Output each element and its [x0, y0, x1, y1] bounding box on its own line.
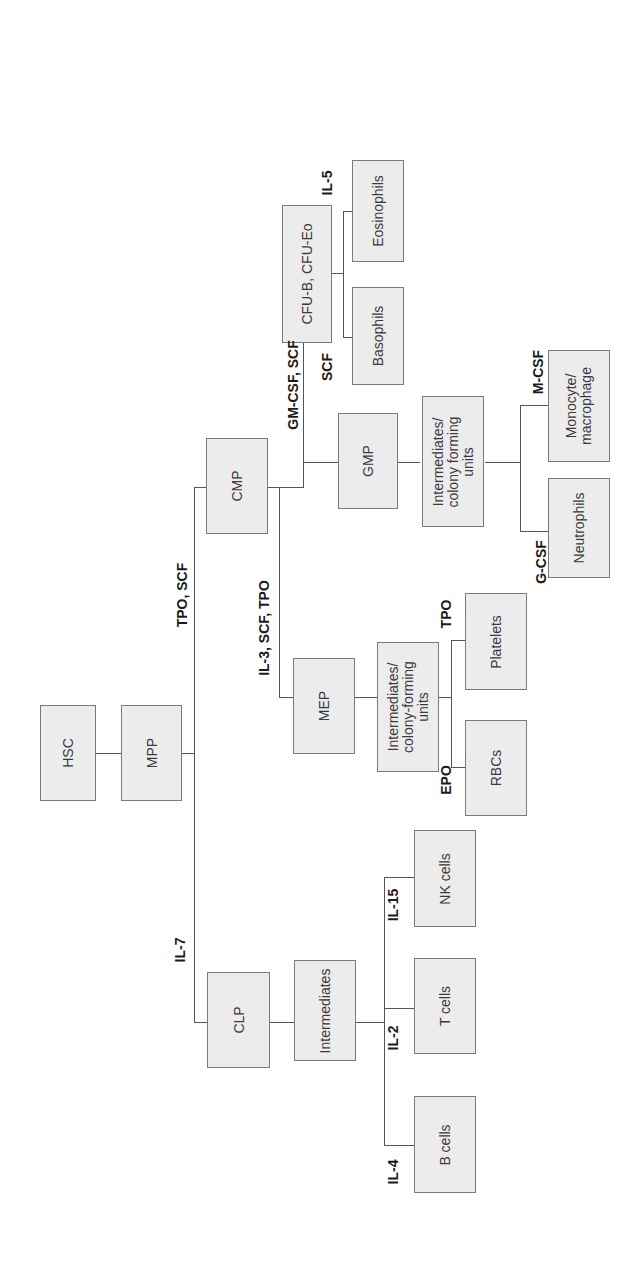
connector-hsc-mpp: [96, 753, 121, 754]
connector-gmpint-right: [485, 462, 520, 463]
node-platelets: Platelets: [465, 593, 527, 690]
cytokine-il5: IL-5: [319, 171, 335, 196]
cytokine-m-csf: M-CSF: [530, 350, 546, 394]
connector-gmp-int: [398, 462, 420, 463]
connector-to-monocyte: [520, 405, 548, 406]
cytokine-epo: EPO: [438, 765, 454, 795]
cytokine-il15: IL-15: [385, 889, 401, 922]
node-gmp: GMP: [338, 413, 398, 509]
connector-to-b: [384, 1145, 414, 1146]
node-mep-intermediates: Intermediates/ colony-forming units: [377, 642, 439, 772]
node-label: Intermediates/ colony-forming units: [386, 661, 431, 753]
connector-main-trunk: [194, 487, 195, 1023]
node-monocyte-macrophage: Monocyte/ macrophage: [548, 350, 610, 462]
node-nk-cells: NK cells: [414, 830, 476, 927]
node-neutrophils: Neutrophils: [548, 478, 610, 578]
node-basophils: Basophils: [352, 287, 404, 385]
connector-trunk-clp: [194, 1022, 207, 1023]
connector-mepint-split: [451, 640, 452, 767]
node-hsc: HSC: [40, 705, 96, 801]
node-label: CFU-B, CFU-Eo: [300, 223, 315, 324]
node-label: Intermediates/ colony forming units: [431, 416, 476, 507]
connector-to-gmp: [303, 462, 338, 463]
node-label: CMP: [230, 470, 245, 501]
connector-cfu-right: [332, 273, 343, 274]
node-t-cells: T cells: [414, 958, 476, 1054]
node-label: CLP: [231, 1006, 246, 1033]
cytokine-scf: SCF: [319, 353, 335, 381]
node-label: HSC: [61, 738, 76, 768]
node-rbcs: RBCs: [465, 720, 527, 816]
node-label: Eosinophils: [371, 175, 386, 247]
connector-lymphint-right: [356, 1022, 384, 1023]
connector-cmp-right: [268, 487, 303, 488]
node-label: Monocyte/ macrophage: [564, 367, 594, 445]
connector-clp-int: [270, 1022, 294, 1023]
connector-trunk-cmp: [194, 487, 206, 488]
node-mpp: MPP: [121, 705, 182, 801]
hematopoiesis-diagram: HSC MPP CMP CLP MEP GMP CFU-B, CFU-Eo Eo…: [0, 0, 626, 1268]
node-lymph-intermediates: Intermediates: [294, 960, 356, 1061]
connector-to-nk: [384, 877, 414, 878]
node-mep: MEP: [293, 658, 355, 754]
cytokine-il7: IL-7: [172, 938, 188, 963]
node-label: Neutrophils: [572, 493, 587, 564]
node-label: MPP: [144, 738, 159, 768]
node-b-cells: B cells: [414, 1096, 476, 1193]
node-label: B cells: [438, 1124, 453, 1165]
connector-to-platelets: [451, 640, 465, 641]
node-label: T cells: [438, 986, 453, 1026]
connector-gmpint-split: [520, 405, 521, 531]
node-label: Basophils: [371, 306, 386, 367]
node-cmp: CMP: [206, 438, 268, 534]
node-label: Platelets: [489, 615, 504, 669]
connector-to-t: [384, 1008, 414, 1009]
node-eosinophils: Eosinophils: [352, 160, 404, 262]
connector-cmp-mep-branch: [279, 487, 280, 697]
node-label: GMP: [361, 445, 376, 477]
connector-to-mep: [279, 697, 293, 698]
connector-cfu-split: [343, 211, 344, 337]
node-cfu-b-eo: CFU-B, CFU-Eo: [282, 205, 332, 343]
node-clp: CLP: [207, 972, 270, 1068]
node-label: MEP: [317, 691, 332, 721]
connector-mep-int: [355, 697, 377, 698]
node-label: RBCs: [489, 750, 504, 787]
cytokine-il4: IL-4: [385, 1160, 401, 1185]
connector-to-neutrophils: [520, 531, 548, 532]
node-label: Intermediates: [318, 968, 333, 1053]
cytokine-il2: IL-2: [385, 1026, 401, 1051]
cytokine-g-csf: G-CSF: [533, 540, 549, 584]
connector-mepint-right: [438, 697, 451, 698]
cytokine-gm-csf-scf: GM-CSF, SCF: [285, 340, 301, 429]
cytokine-tpo: TPO: [438, 600, 454, 629]
connector-mpp-trunk: [182, 753, 194, 754]
node-gmp-intermediates: Intermediates/ colony forming units: [422, 396, 484, 527]
cytokine-il3-scf-tpo: IL-3, SCF, TPO: [256, 580, 272, 676]
node-label: NK cells: [438, 853, 453, 904]
cytokine-tpo-scf: TPO, SCF: [174, 563, 190, 628]
